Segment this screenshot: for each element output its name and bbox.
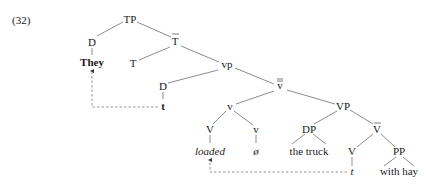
syntax-tree: (32) TP D They T T vp D t v v VP V v DP … (0, 0, 428, 184)
node-trace-verb: t (350, 165, 354, 177)
edge-tbar-vp (181, 46, 219, 62)
edge-vbar2-v (236, 91, 274, 104)
edge-DP-truck-right (313, 134, 326, 144)
edge-v-V (213, 111, 226, 124)
edge-DP-truck-left (292, 134, 305, 144)
edge-tbar-t (139, 47, 170, 60)
edge-tp-tbar (137, 22, 171, 37)
edge-Vbar-V (357, 134, 373, 147)
node-t-head: T (130, 57, 137, 69)
node-v-bar: V (373, 123, 381, 135)
node-dp: DP (302, 123, 316, 135)
node-trace-subject: t (161, 100, 165, 112)
node-they: They (80, 56, 104, 68)
node-d-spec: D (159, 80, 167, 92)
node-v-little-lower: v (253, 123, 259, 135)
node-v-double-bar: v (277, 79, 283, 91)
node-pp: PP (393, 145, 405, 157)
edge-VP-Vbar (350, 110, 373, 124)
node-with-hay: with hay (380, 165, 419, 177)
example-number: (32) (12, 14, 31, 27)
node-d-subject: D (88, 36, 96, 48)
node-tp: TP (124, 13, 137, 25)
edge-tp-d (97, 22, 123, 36)
movement-arrow-verb (210, 160, 347, 172)
movement-arrow-subject (92, 71, 158, 107)
node-t-bar: T (172, 35, 179, 47)
node-v-head-lower: V (348, 145, 356, 157)
node-v-head-upper: V (206, 123, 214, 135)
edge-vp-vbar2 (235, 68, 274, 84)
edge-v-v (234, 111, 253, 125)
node-vp-big: VP (336, 100, 350, 112)
node-null: ø (252, 145, 259, 157)
node-vp-little: vp (222, 58, 234, 70)
node-the-truck: the truck (290, 145, 329, 157)
node-loaded: loaded (195, 145, 225, 157)
edge-VP-DP (314, 111, 337, 124)
edge-vp-d (168, 70, 218, 83)
node-v-little-head: v (227, 100, 233, 112)
edge-vbar2-VP (287, 90, 335, 104)
